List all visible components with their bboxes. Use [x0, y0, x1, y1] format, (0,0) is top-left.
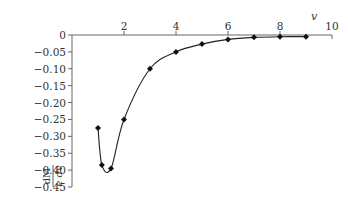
- x-tick-label: 10: [325, 20, 338, 32]
- x-tick-label: 4: [173, 20, 180, 32]
- data-point-marker: [99, 162, 105, 168]
- chart-canvas: 2468100−0.05−0.10−0.15−0.20−0.25−0.30−0.…: [0, 0, 348, 203]
- y-label-numerator: dM: [41, 168, 52, 185]
- line-chart: 2468100−0.05−0.10−0.15−0.20−0.25−0.30−0.…: [0, 0, 348, 203]
- y-axis-label: dM e dv: [41, 165, 64, 187]
- x-tick-label: 6: [225, 20, 232, 32]
- y-tick-label: −0.10: [34, 63, 66, 75]
- ticks: 2468100−0.05−0.10−0.15−0.20−0.25−0.30−0.…: [34, 20, 339, 193]
- series-line: [98, 37, 306, 173]
- data-point-marker: [225, 36, 231, 42]
- y-tick-label: −0.15: [34, 80, 66, 92]
- y-tick-label: 0: [59, 29, 66, 41]
- y-label-denominator: e dv: [53, 165, 64, 186]
- y-tick-label: −0.20: [34, 97, 66, 109]
- data-point-marker: [108, 165, 114, 171]
- data-point-marker: [173, 49, 179, 55]
- x-tick-label: 2: [121, 20, 128, 32]
- axes: [72, 35, 332, 187]
- data-point-marker: [199, 41, 205, 47]
- y-tick-label: −0.25: [34, 113, 66, 125]
- data-point-marker: [121, 116, 127, 122]
- y-tick-label: −0.30: [34, 130, 66, 142]
- data-series: [95, 34, 309, 173]
- data-point-marker: [95, 125, 101, 131]
- x-axis-label: v: [311, 10, 318, 23]
- x-tick-label: 8: [277, 20, 284, 32]
- y-tick-label: −0.35: [34, 147, 66, 159]
- y-tick-label: −0.05: [34, 46, 66, 58]
